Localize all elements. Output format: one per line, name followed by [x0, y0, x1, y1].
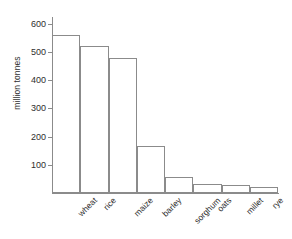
x-label-rye: rye — [271, 196, 286, 211]
bar-maize — [109, 58, 137, 193]
y-tick-label: 400 — [6, 76, 46, 85]
x-label-barley: barley — [161, 196, 184, 219]
y-tick-label: 100 — [6, 161, 46, 170]
bar-oats — [193, 184, 221, 193]
x-label-sorghum: sorghum — [192, 196, 222, 226]
x-axis-line — [52, 193, 279, 194]
x-label-rice: rice — [102, 196, 118, 212]
bar-millet — [222, 185, 250, 193]
y-tick-label: 500 — [6, 48, 46, 57]
y-tick-label: 200 — [6, 133, 46, 142]
bar-rye — [250, 187, 278, 193]
x-label-millet: millet — [245, 196, 265, 216]
bar-wheat — [52, 35, 80, 193]
x-label-wheat: wheat — [76, 196, 98, 218]
bar-barley — [137, 146, 165, 193]
bar-rice — [80, 46, 108, 193]
y-tick-label: 300 — [6, 104, 46, 113]
y-tick-label: 600 — [6, 20, 46, 29]
bar-chart: million tonnes 100200300400500600 wheatr… — [0, 0, 292, 239]
plot-area — [52, 18, 278, 193]
x-label-maize: maize — [133, 196, 155, 218]
bar-sorghum — [165, 177, 193, 193]
